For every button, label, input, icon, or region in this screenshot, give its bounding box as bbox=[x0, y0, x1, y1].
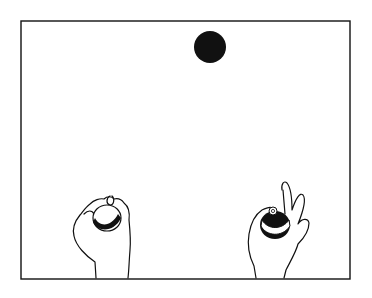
right-ball bbox=[260, 207, 290, 239]
thrown-ball bbox=[194, 31, 226, 63]
left-ball bbox=[93, 205, 121, 231]
illustration bbox=[0, 0, 372, 298]
